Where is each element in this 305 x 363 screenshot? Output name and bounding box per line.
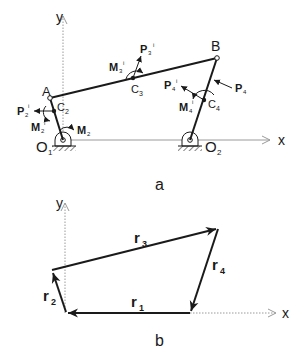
force-p4-applied-arrow <box>214 80 232 88</box>
four-bar-linkage-figure: y x A B O 1 O 2 C 2 <box>0 0 305 363</box>
label-o1: O <box>36 138 48 155</box>
label-o1-sub: 1 <box>48 148 53 157</box>
y-axis-label-a: y <box>56 9 63 25</box>
label-p4-inertia-sub: 4 <box>172 86 176 92</box>
label-p2-sup: i <box>28 103 29 109</box>
label-p3-sub: 3 <box>148 50 152 56</box>
label-m2: M <box>77 124 86 136</box>
caption-a: a <box>155 176 164 193</box>
label-p4-inertia: P <box>164 79 171 91</box>
label-c4: C <box>208 98 216 110</box>
label-o2-sub: 2 <box>217 148 222 157</box>
label-r1-sub: 1 <box>139 303 144 313</box>
x-axis-label-b: x <box>282 305 289 321</box>
label-p2: P <box>17 105 24 117</box>
label-p2-sub: 2 <box>25 112 29 118</box>
label-r3: r <box>134 229 140 246</box>
caption-b: b <box>155 332 164 349</box>
label-m4-inertia-sup: i <box>192 99 193 105</box>
label-c3: C <box>131 83 139 95</box>
force-p4-inertia-arrow <box>181 86 204 100</box>
label-r4-sub: 4 <box>220 266 225 276</box>
label-m4-inertia-sub: 4 <box>189 108 193 114</box>
label-c2: C <box>57 101 65 113</box>
label-m2-inertia-sub: 2 <box>41 128 45 134</box>
force-p3-inertia-arrow <box>133 56 141 78</box>
label-p4-sub: 4 <box>243 89 247 95</box>
label-a: A <box>42 84 51 99</box>
joint-b <box>215 56 220 61</box>
label-r2-sub: 2 <box>51 297 56 307</box>
label-c3-sub: 3 <box>139 90 143 97</box>
label-c4-sub: 4 <box>216 105 220 112</box>
label-m2-inertia: M <box>31 121 40 133</box>
label-m2-inertia-sup: i <box>44 120 45 126</box>
label-p4-inertia-sup: i <box>176 78 177 84</box>
ground-support-o2 <box>178 132 202 151</box>
label-p4: P <box>235 82 242 94</box>
x-axis-label-a: x <box>278 132 285 148</box>
label-r1: r <box>131 293 137 310</box>
figure-b: y x r 1 r 2 r 3 r 4 b <box>43 195 289 349</box>
label-m4-inertia: M <box>179 101 188 113</box>
moment-m2-applied-arc <box>60 127 74 130</box>
label-m3-inertia-sup: i <box>123 60 124 66</box>
label-m3-inertia-sub: 3 <box>119 68 123 74</box>
label-b: B <box>211 38 220 54</box>
label-r3-sub: 3 <box>142 239 147 249</box>
label-r2: r <box>43 287 49 304</box>
label-p3: P <box>140 43 147 55</box>
moment-m2-inertia-arc <box>43 106 50 121</box>
label-m2-sub: 2 <box>87 131 91 137</box>
label-c2-sub: 2 <box>65 108 69 115</box>
ground-support-o1 <box>52 132 76 151</box>
label-o2: O <box>205 138 217 155</box>
figure-a: y x A B O 1 O 2 C 2 <box>17 9 285 193</box>
label-m3-inertia: M <box>109 61 118 73</box>
label-p3-sup: i <box>153 42 154 48</box>
label-r4: r <box>212 256 218 273</box>
y-axis-label-b: y <box>56 195 63 211</box>
